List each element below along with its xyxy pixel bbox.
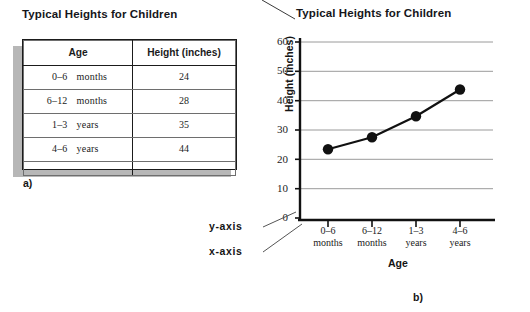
table-row-empty — [24, 162, 236, 176]
y-tick-label: 60 — [264, 35, 288, 47]
figure-label-a: a) — [23, 177, 32, 189]
cell-height: 44 — [133, 138, 236, 162]
cell-height: 24 — [133, 66, 236, 90]
annotation-y-axis: y-axis — [209, 220, 242, 232]
cell-empty — [24, 162, 133, 176]
table-row: 4–6years 44 — [24, 138, 236, 162]
x-tick-label: 4–6 years — [431, 225, 489, 249]
cell-age-unit: years — [77, 144, 115, 155]
cell-empty — [133, 162, 236, 176]
data-point — [323, 144, 333, 154]
cell-age-unit: years — [77, 120, 115, 131]
cell-age: 0–6months — [24, 66, 133, 90]
x-tick-label-line1: 4–6 — [431, 225, 489, 237]
cell-age-unit: months — [77, 96, 115, 107]
column-header-height: Height (inches) — [133, 41, 236, 66]
figure-label-b: b) — [413, 291, 423, 303]
annotation-x-axis: x-axis — [209, 245, 242, 257]
x-axis-title: Age — [388, 257, 408, 269]
cell-age: 4–6years — [24, 138, 133, 162]
x-tick-label-line2: years — [431, 237, 489, 249]
data-line-series — [328, 90, 460, 150]
annotation-leader-lines — [180, 180, 310, 270]
table-row: 6–12months 28 — [24, 90, 236, 114]
column-header-age: Age — [24, 41, 133, 66]
data-point — [411, 111, 421, 121]
gridlines — [300, 42, 493, 189]
y-tick-label: 40 — [264, 94, 288, 106]
cell-age-range: 1–3 — [42, 120, 68, 131]
table-title: Typical Heights for Children — [22, 8, 177, 20]
y-tick-label: 30 — [264, 123, 288, 135]
chart-title: Typical Heights for Children — [296, 7, 451, 19]
data-point — [455, 84, 465, 94]
cell-height: 35 — [133, 114, 236, 138]
cell-age: 1–3years — [24, 114, 133, 138]
cell-height: 28 — [133, 90, 236, 114]
cell-age-range: 4–6 — [42, 144, 68, 155]
cell-age-unit: months — [77, 72, 115, 83]
table-row: 0–6months 24 — [24, 66, 236, 90]
cell-age-range: 6–12 — [42, 96, 68, 107]
cell-age-range: 0–6 — [42, 72, 68, 83]
data-point — [367, 132, 377, 142]
y-tick-label: 20 — [264, 153, 288, 165]
table-header-row: Age Height (inches) — [24, 41, 236, 66]
y-tick-label: 50 — [264, 64, 288, 76]
cell-age: 6–12months — [24, 90, 133, 114]
heights-table: Age Height (inches) 0–6months 24 6–12mon… — [22, 39, 237, 170]
table-row: 1–3years 35 — [24, 114, 236, 138]
